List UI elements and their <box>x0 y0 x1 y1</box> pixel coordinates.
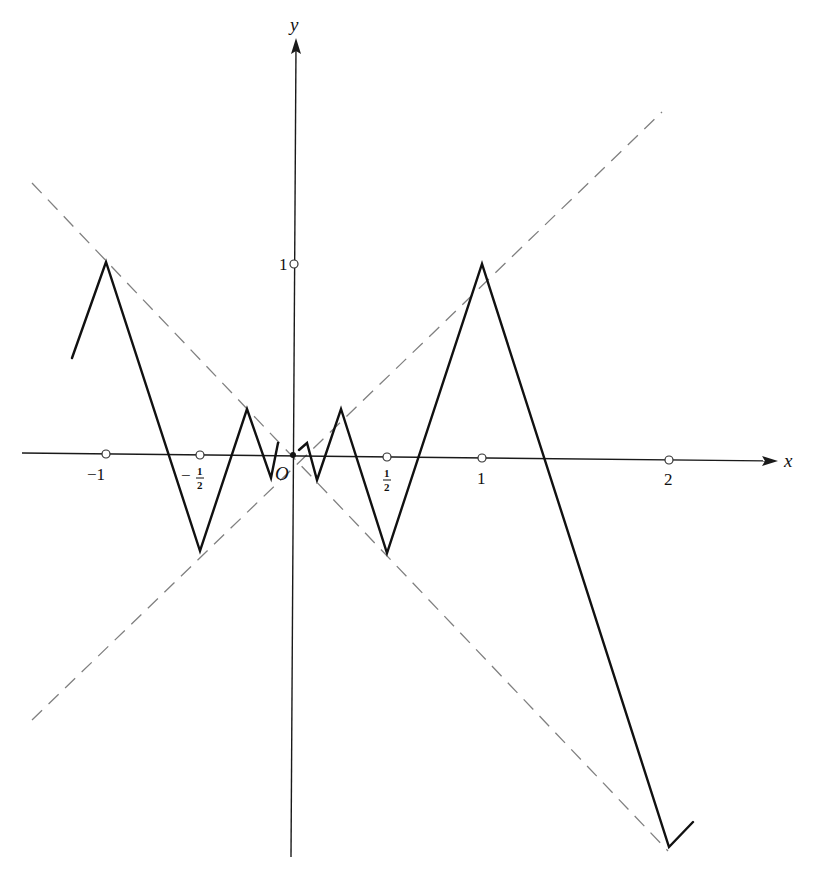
x-tick-label-2: 2 <box>664 470 673 489</box>
function-graph: x y O −1 − 1 2 1 2 1 2 1 <box>0 0 817 875</box>
x-tick-neg-half-den: 2 <box>197 479 203 491</box>
tick-x-1 <box>478 454 486 462</box>
tick-x-neg1 <box>102 450 110 458</box>
x-tick-neg-half-num: 1 <box>197 465 203 477</box>
line-y-equals-x <box>32 112 662 720</box>
tick-x-half <box>383 453 391 461</box>
x-tick-label-half: 1 2 <box>383 467 391 493</box>
x-tick-half-den: 2 <box>384 481 390 493</box>
x-tick-label-neg1: −1 <box>87 465 105 484</box>
x-tick-neg-half-sign: − <box>181 466 191 485</box>
line-y-equals-neg-x <box>32 183 668 851</box>
y-tick-label-1: 1 <box>279 255 288 274</box>
tick-x-neg-half <box>196 451 204 459</box>
zigzag-curve <box>72 262 278 551</box>
x-tick-label-neg-half: − 1 2 <box>181 465 204 491</box>
tick-y-1 <box>290 260 298 268</box>
x-axis <box>22 453 772 461</box>
x-tick-half-num: 1 <box>384 467 390 479</box>
x-axis-label: x <box>783 450 793 471</box>
y-axis <box>291 46 296 857</box>
x-tick-label-1: 1 <box>477 469 486 488</box>
origin-label: O <box>275 463 289 484</box>
y-axis-label: y <box>288 14 299 35</box>
zigzag-curve-right <box>299 264 693 847</box>
tick-x-2 <box>665 456 673 464</box>
origin-dot <box>290 452 296 458</box>
